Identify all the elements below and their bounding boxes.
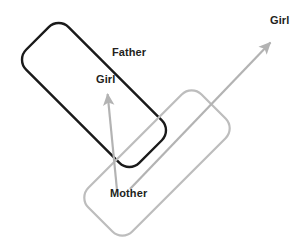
girl-arrow-vertical	[108, 94, 117, 190]
diagram-vector-layer	[0, 0, 305, 252]
father-label: Father	[112, 46, 146, 58]
girl-arrow-diagonal	[130, 43, 271, 190]
father-rectangle-outline	[16, 17, 172, 173]
mother-rectangle	[79, 85, 236, 242]
mother-rectangle-outline	[79, 85, 236, 242]
father-rectangle	[16, 17, 172, 173]
mother-label: Mother	[110, 187, 147, 199]
diagram-canvas: Father Girl Mother Girl	[0, 0, 305, 252]
girl-label-right: Girl	[270, 14, 289, 26]
girl-label-left: Girl	[96, 73, 115, 85]
